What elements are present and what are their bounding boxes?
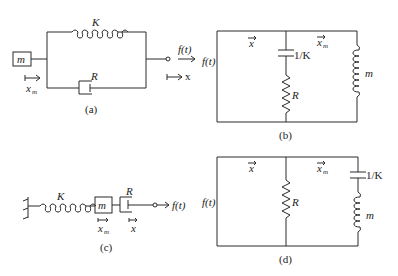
mass-velocity-label: x [316,36,322,48]
spring-label: K [91,16,100,28]
xm-label: x [25,82,31,94]
x-label: x [130,222,136,234]
source-label: f(t) [202,196,216,209]
mass-label: m [17,53,25,65]
damper-label: R [90,70,98,82]
xm-subscript: m [104,228,109,236]
spring [72,30,128,38]
inductor [354,192,361,232]
capacitor-label: 1/K [294,49,311,61]
mass-velocity-subscript: m [323,42,328,50]
xm-subscript: m [32,88,37,96]
terminal-node [166,57,170,61]
resistor [282,180,290,246]
velocity-label: x [248,37,254,49]
resistor [282,75,290,122]
source-label: f(t) [202,55,216,68]
velocity-label: x [248,162,254,174]
inductor-label: m [366,209,374,221]
caption-b: (b) [279,129,292,142]
caption-d: (d) [279,253,292,266]
resistor-label: R [291,196,299,208]
damper-label: R [125,185,133,197]
panel-a: m K R f(t) x x m (a) [13,16,195,116]
resistor-label: R [291,89,299,101]
terminal-node [153,203,157,207]
force-label: f(t) [178,43,192,56]
mechanical-electrical-analogy-figure: m K R f(t) x x m (a) [0,0,398,276]
caption-c: (c) [100,241,113,254]
mass-label: m [98,199,106,211]
capacitor-label: 1/K [366,169,383,181]
mass-velocity-label: x [316,162,322,174]
spring [40,204,96,212]
mass-velocity-subscript: m [323,168,328,176]
panel-b: f(t) 1/K R m x x m (b) [202,31,373,142]
inductor [353,45,360,97]
wall-hatch [23,217,28,219]
wall-hatch [23,199,28,201]
xm-label: x [97,222,103,234]
panel-d: f(t) R 1/K m x x m (d) [202,157,383,266]
force-label: f(t) [172,199,186,212]
wall-hatch [23,208,28,210]
inductor-label: m [365,67,373,79]
caption-a: (a) [85,103,98,116]
x-label: x [185,70,191,82]
spring-label: K [56,190,65,202]
panel-c: K m R f(t) x m x (c) [23,185,186,254]
